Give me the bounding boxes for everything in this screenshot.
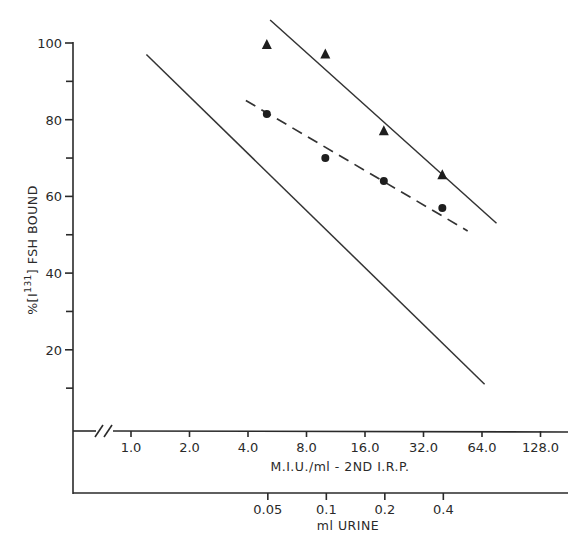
circle-marker bbox=[263, 110, 271, 118]
x-tick-label: 8.0 bbox=[296, 440, 317, 455]
x-secondary-tick-label: 0.05 bbox=[253, 502, 282, 517]
solid-fit-line bbox=[270, 20, 496, 223]
y-tick-label: 40 bbox=[45, 266, 62, 281]
x-tick-label: 4.0 bbox=[238, 440, 259, 455]
fit-lines bbox=[146, 20, 496, 384]
axis-break-icon bbox=[95, 425, 112, 437]
chart-canvas: 20406080100 %[I131] FSH BOUND 1.02.04.08… bbox=[0, 0, 580, 551]
x-tick-label: 2.0 bbox=[179, 440, 200, 455]
triangle-marker bbox=[320, 49, 330, 59]
x-secondary-tick-label: 0.4 bbox=[433, 502, 454, 517]
y-axis-title: %[I131] FSH BOUND bbox=[23, 185, 40, 315]
x-secondary-tick-label: 0.2 bbox=[374, 502, 395, 517]
data-markers bbox=[262, 39, 448, 212]
y-axis: 20406080100 %[I131] FSH BOUND bbox=[23, 36, 73, 494]
x-tick-label: 32.0 bbox=[409, 440, 438, 455]
x-tick-label: 16.0 bbox=[351, 440, 380, 455]
x-tick-label: 1.0 bbox=[121, 440, 142, 455]
circle-marker bbox=[380, 177, 388, 185]
y-tick-label: 100 bbox=[37, 36, 62, 51]
x-tick-label: 64.0 bbox=[468, 440, 497, 455]
y-tick-label: 80 bbox=[45, 113, 62, 128]
x-axis-urine: 0.050.10.20.4 ml URINE bbox=[73, 493, 568, 533]
x-axis-line bbox=[113, 431, 568, 432]
circle-marker bbox=[438, 204, 446, 212]
solid-fit-line bbox=[146, 55, 484, 385]
dashed-fit-line bbox=[246, 101, 468, 231]
triangle-marker bbox=[379, 125, 389, 135]
circle-marker bbox=[321, 154, 329, 162]
triangle-marker bbox=[262, 39, 272, 49]
x-axis-title: M.I.U./ml - 2ND I.R.P. bbox=[270, 459, 409, 474]
y-tick-label: 60 bbox=[45, 189, 62, 204]
x-secondary-tick-label: 0.1 bbox=[316, 502, 337, 517]
x-axis-miu: 1.02.04.08.016.032.064.0128.0 M.I.U./ml … bbox=[73, 425, 568, 474]
x-axis-secondary-title: ml URINE bbox=[317, 518, 379, 533]
y-tick-label: 20 bbox=[45, 343, 62, 358]
x-tick-label: 128.0 bbox=[522, 440, 559, 455]
